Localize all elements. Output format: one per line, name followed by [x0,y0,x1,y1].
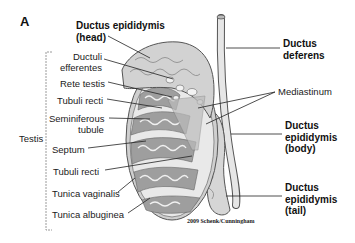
label-seminiferous-tubule: Seminiferous tubule [49,113,104,135]
label-line: (head) [76,32,165,44]
label-line: tubule [49,124,104,135]
label-line: Ductuli [60,51,102,62]
label-line: Seminiferous [49,113,104,124]
testis-bracket [46,52,52,230]
label-line: (body) [285,143,337,155]
label-mediastinum: Mediastinum [278,86,332,97]
label-line: epididymis [285,194,337,206]
label-tunica-albuginea: Tunica albuginea [52,209,124,220]
label-ductus-epididymis-head: Ductus epididymis (head) [76,20,165,43]
image-credit: 2009 Schenk/Cunningham [187,218,255,224]
label-line: Ductus epididymis [76,20,165,32]
label-septum: Septum [52,144,85,155]
label-line: Ductus [283,38,325,50]
label-ductus-epididymis-tail: Ductus epididymis (tail) [285,182,337,217]
panel-letter: A [20,14,29,29]
label-tunica-vaginalis: Tunica vaginalis [52,188,120,199]
label-ductus-deferens: Ductus deferens [283,38,325,61]
label-ductus-epididymis-body: Ductus epididymis (body) [285,120,337,155]
label-line: deferens [283,50,325,62]
label-line: Ductus [285,182,337,194]
label-tubuli-recti-bottom: Tubuli recti [53,166,99,177]
label-rete-testis: Rete testis [60,78,105,89]
label-line: epididymis [285,132,337,144]
label-testis: Testis [19,133,43,144]
label-ductuli-efferentes: Ductuli efferentes [60,51,102,73]
label-line: efferentes [60,62,102,73]
label-line: (tail) [285,205,337,217]
label-line: Ductus [285,120,337,132]
label-tubuli-recti-top: Tubuli recti [57,95,103,106]
